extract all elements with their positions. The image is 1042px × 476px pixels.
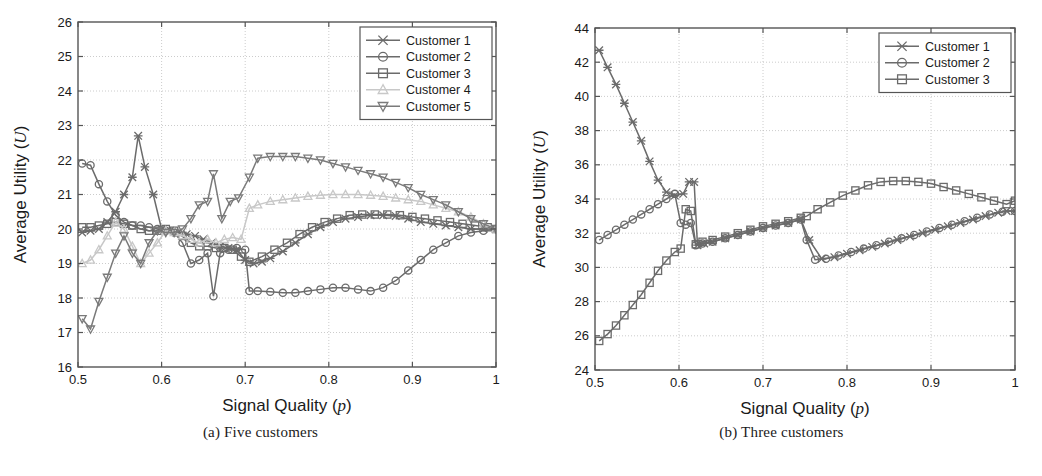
- y-axis-title: Average Utility (U): [530, 130, 549, 268]
- legend-item-label: Customer 2: [925, 56, 990, 70]
- series-customer-3: [79, 211, 500, 265]
- marker-x-cross: [654, 176, 663, 184]
- legend-item-label: Customer 3: [406, 67, 471, 81]
- marker-circle: [596, 236, 603, 243]
- x-tick-label: 0.8: [838, 375, 856, 390]
- y-tick-label: 22: [58, 153, 72, 168]
- y-tick-label: 30: [575, 260, 589, 275]
- legend-item-label: Customer 5: [406, 100, 471, 114]
- x-axis-title-main: Signal Quality (: [740, 399, 856, 418]
- x-tick-label: 0.9: [403, 372, 421, 387]
- marker-x-cross: [628, 118, 637, 126]
- x-axis-title-close: ): [864, 399, 870, 418]
- figure-container: 16171819202122232425260.50.60.70.80.91Si…: [0, 0, 1042, 476]
- x-tick-label: 0.6: [670, 375, 688, 390]
- y-tick-label: 25: [58, 49, 72, 64]
- y-tick-label: 26: [575, 328, 589, 343]
- y-tick-label: 40: [575, 89, 589, 104]
- x-tick-label: 0.7: [754, 375, 772, 390]
- series-line: [82, 157, 496, 329]
- marker-x-cross: [645, 158, 654, 166]
- legend-item-label: Customer 4: [406, 83, 471, 97]
- legend-item-label: Customer 2: [406, 50, 471, 64]
- legend-item-label: Customer 3: [925, 73, 990, 87]
- y-axis-title-main: Average Utility (: [530, 148, 549, 268]
- marker-x-cross: [637, 137, 646, 145]
- x-tick-label: 0.7: [236, 372, 254, 387]
- panel-a-caption: (a) Five customers: [0, 424, 521, 441]
- legend-item-label: Customer 1: [406, 34, 471, 48]
- chart-svg-a: 16171819202122232425260.50.60.70.80.91Si…: [0, 0, 521, 420]
- y-axis-title-main: Average Utility (: [11, 143, 30, 263]
- x-axis-title-main: Signal Quality (: [222, 396, 338, 415]
- x-tick-label: 1: [492, 372, 499, 387]
- y-tick-label: 32: [575, 226, 589, 241]
- chart-panel-b: 24262830323436384042440.50.60.70.80.91Si…: [521, 0, 1042, 476]
- y-tick-label: 19: [58, 256, 72, 271]
- x-tick-label: 0.6: [153, 372, 171, 387]
- series-customer-2: [596, 190, 1019, 263]
- x-axis-title: Signal Quality (p): [222, 396, 351, 415]
- marker-x-cross: [595, 46, 604, 54]
- x-tick-label: 0.5: [69, 372, 87, 387]
- marker-x-cross: [266, 255, 275, 263]
- x-tick-label: 0.9: [922, 375, 940, 390]
- panel-b-caption: (b) Three customers: [521, 424, 1042, 441]
- x-tick-label: 0.5: [586, 375, 604, 390]
- chart-legend: Customer 1Customer 2Customer 3: [879, 33, 1011, 93]
- x-axis-title-symbol: p: [855, 399, 865, 418]
- marker-x-cross: [291, 239, 300, 247]
- y-tick-label: 23: [58, 118, 72, 133]
- y-tick-label: 18: [58, 291, 72, 306]
- series-customer-3: [596, 177, 1019, 344]
- series-group: [78, 132, 501, 333]
- y-tick-label: 17: [58, 325, 72, 340]
- y-tick-label: 42: [575, 55, 589, 70]
- y-tick-label: 44: [575, 21, 589, 36]
- x-axis-title: Signal Quality (p): [740, 399, 869, 418]
- chart-legend: Customer 1Customer 2Customer 3Customer 4…: [360, 27, 492, 120]
- y-tick-label: 20: [58, 222, 72, 237]
- marker-x-cross: [679, 190, 688, 198]
- y-tick-label: 24: [58, 84, 72, 99]
- y-tick-label: 26: [58, 15, 72, 30]
- y-axis-title: Average Utility (U): [11, 126, 30, 264]
- y-tick-label: 34: [575, 192, 589, 207]
- marker-x-cross: [603, 64, 612, 72]
- y-axis-title-close: ): [11, 126, 30, 132]
- y-tick-label: 38: [575, 123, 589, 138]
- series-customer-5: [78, 153, 500, 333]
- y-tick-label: 21: [58, 187, 72, 202]
- y-tick-label: 36: [575, 157, 589, 172]
- legend-item-label: Customer 1: [925, 40, 990, 54]
- chart-svg-b: 24262830323436384042440.50.60.70.80.91Si…: [521, 0, 1042, 420]
- chart-panel-a: 16171819202122232425260.50.60.70.80.91Si…: [0, 0, 521, 476]
- x-axis-title-symbol: p: [337, 396, 347, 415]
- marker-x-cross: [620, 99, 629, 107]
- y-axis-title-close: ): [530, 130, 549, 136]
- x-tick-label: 0.8: [320, 372, 338, 387]
- x-tick-label: 1: [1011, 375, 1018, 390]
- marker-x-cross: [278, 248, 287, 256]
- x-axis-title-close: ): [346, 396, 352, 415]
- marker-x-cross: [120, 191, 129, 199]
- marker-x-cross: [612, 81, 621, 89]
- y-tick-label: 28: [575, 294, 589, 309]
